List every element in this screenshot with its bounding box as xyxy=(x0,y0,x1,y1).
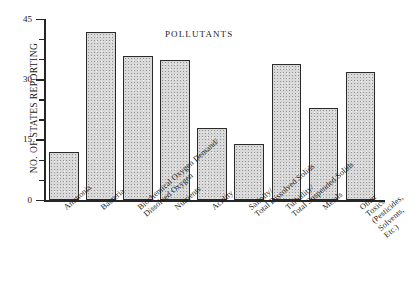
bar xyxy=(86,32,116,201)
bar xyxy=(123,56,153,201)
bar xyxy=(234,144,264,200)
bar xyxy=(346,72,376,201)
